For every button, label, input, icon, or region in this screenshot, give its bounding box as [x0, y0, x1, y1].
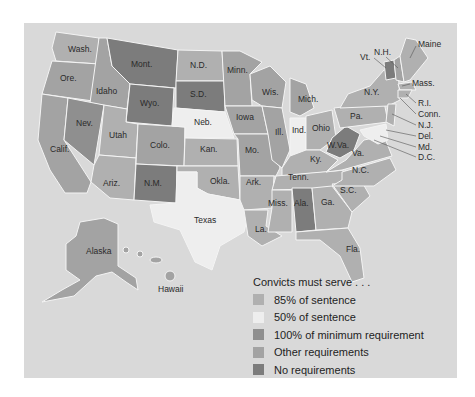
label-ky: Ky.: [310, 154, 322, 164]
label-texas: Texas: [194, 215, 216, 225]
label-del: Del.: [418, 131, 433, 141]
label-okla: Okla.: [210, 176, 230, 186]
label-wva: W.Va.: [327, 140, 349, 150]
label-wyo: Wyo.: [140, 98, 159, 108]
label-nc: N.C.: [352, 165, 369, 175]
label-fla: Fla.: [346, 244, 360, 254]
label-nh: N.H.: [374, 47, 391, 57]
label-kan: Kan.: [200, 144, 218, 154]
legend-label: Other requirements: [274, 346, 369, 358]
legend-label: 100% of minimum requirement: [274, 329, 424, 341]
legend-title: Convicts must serve . . .: [253, 276, 424, 288]
label-sd: S.D.: [190, 89, 207, 99]
label-mont: Mont.: [131, 59, 152, 69]
label-nm: N.M.: [144, 178, 162, 188]
label-alaska: Alaska: [86, 246, 112, 256]
swatch-other: [253, 347, 264, 358]
label-nev: Nev.: [76, 118, 93, 128]
label-ark: Ark.: [246, 177, 261, 187]
swatch-100min: [253, 329, 264, 340]
label-wash: Wash.: [68, 44, 92, 54]
label-maine: Maine: [418, 39, 441, 49]
label-ariz: Ariz.: [103, 178, 120, 188]
label-conn: Conn.: [418, 109, 441, 119]
label-tenn: Tenn.: [288, 172, 309, 182]
label-nd: N.D.: [190, 60, 207, 70]
label-vt: Vt.: [360, 52, 370, 62]
swatch-50: [253, 312, 264, 323]
label-ny: N.Y.: [364, 87, 379, 97]
label-hawaii: Hawaii: [158, 284, 184, 294]
label-ore: Ore.: [60, 73, 77, 83]
state-indiana: [290, 118, 306, 156]
label-pa: Pa.: [350, 111, 363, 121]
label-ind: Ind.: [292, 125, 306, 135]
label-va: Va.: [352, 148, 364, 158]
legend-label: No requirements: [274, 364, 355, 376]
legend-item-50: 50% of sentence: [253, 309, 424, 327]
swatch-85: [253, 294, 264, 305]
label-mass: Mass.: [412, 78, 435, 88]
label-wis: Wis.: [262, 87, 279, 97]
label-ga: Ga.: [321, 197, 335, 207]
legend-item-100min: 100% of minimum requirement: [253, 326, 424, 344]
state-alaska: [42, 218, 138, 302]
label-neb: Neb.: [194, 117, 212, 127]
label-utah: Utah: [109, 130, 127, 140]
label-minn: Minn.: [227, 65, 248, 75]
label-idaho: Idaho: [96, 86, 118, 96]
legend-item-other: Other requirements: [253, 344, 424, 362]
label-nj: N.J.: [418, 120, 433, 130]
label-mich: Mich.: [298, 94, 318, 104]
label-ill: Ill.: [275, 127, 284, 137]
legend-item-none: No requirements: [253, 361, 424, 379]
label-sc: S.C.: [340, 185, 357, 195]
state-mississippi: [268, 190, 292, 232]
state-connecticut-ri: [398, 90, 412, 98]
label-ala: Ala.: [294, 198, 309, 208]
label-colo: Colo.: [150, 140, 170, 150]
state-florida: [296, 228, 364, 282]
swatch-none: [253, 364, 264, 375]
label-iowa: Iowa: [236, 112, 254, 122]
label-mo: Mo.: [245, 145, 259, 155]
label-ohio: Ohio: [312, 123, 330, 133]
legend-label: 50% of sentence: [274, 311, 356, 323]
label-md: Md.: [418, 142, 432, 152]
label-miss: Miss.: [268, 198, 288, 208]
legend-label: 85% of sentence: [274, 294, 356, 306]
label-ri: R.I.: [418, 98, 431, 108]
label-la: La.: [255, 224, 267, 234]
label-calif: Calif.: [50, 144, 69, 154]
label-dc: D.C.: [418, 152, 435, 162]
legend: Convicts must serve . . . 85% of sentenc…: [253, 276, 424, 379]
legend-item-85: 85% of sentence: [253, 291, 424, 309]
